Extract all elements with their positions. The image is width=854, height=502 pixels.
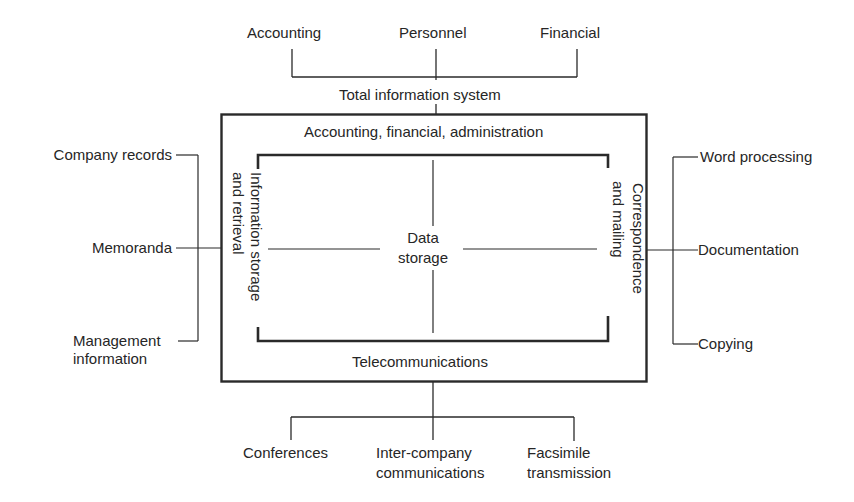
box-left-label-line2: and retrieval	[229, 172, 247, 255]
output-word-processing: Word processing	[700, 148, 812, 166]
input-memoranda: Memoranda	[0, 239, 172, 257]
input-company-records: Company records	[0, 146, 172, 164]
input-accounting: Accounting	[247, 24, 321, 42]
output-copying: Copying	[698, 335, 753, 353]
center-label-line2: storage	[383, 249, 463, 267]
output-documentation: Documentation	[698, 241, 799, 259]
box-top-label: Accounting, financial, administration	[304, 123, 543, 141]
input-personnel: Personnel	[399, 24, 467, 42]
output-intercompany-line2: communications	[376, 464, 484, 482]
output-facsimile-line1: Facsimile	[527, 444, 590, 462]
output-facsimile-line2: transmission	[527, 464, 611, 482]
box-bottom-label: Telecommunications	[352, 353, 488, 371]
box-right-label-line1: Correspondence	[629, 183, 647, 294]
box-right-label-line2: and mailing	[609, 181, 627, 258]
output-conferences: Conferences	[243, 444, 328, 462]
input-management-line2: information	[73, 350, 147, 368]
output-intercompany-line1: Inter-company	[376, 444, 472, 462]
input-management-line1: Management	[73, 332, 161, 350]
center-label-line1: Data	[383, 229, 463, 247]
box-left-label-line1: Information storage	[247, 172, 265, 301]
input-financial: Financial	[540, 24, 600, 42]
system-title: Total information system	[339, 86, 501, 104]
